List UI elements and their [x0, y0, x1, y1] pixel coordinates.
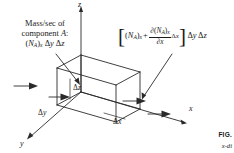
delta-y-factor: Δy	[187, 32, 196, 40]
delta-z-factor: Δz	[198, 32, 207, 40]
dimension-label-delta-y: Δy	[38, 109, 46, 117]
partial-derivative-fraction: ∂(NA)x ∂x	[149, 27, 170, 45]
inflow-arrow-lower-head	[61, 93, 71, 100]
cube-edge-top-left	[57, 55, 81, 68]
flux-term: (NA)x	[125, 32, 142, 41]
mass-flux-in-line2: component A:	[1, 29, 89, 39]
plus-sign: +	[143, 32, 148, 40]
expression-leader-line	[144, 54, 172, 96]
outflow-arrow-lower-head	[162, 110, 172, 117]
axis-label-y: y	[20, 140, 24, 148]
cube-edge-top-back	[81, 55, 140, 72]
cube-edge-bottom-front	[57, 105, 116, 122]
x-axis-arrowhead	[181, 120, 187, 125]
axis-label-z: z	[78, 1, 81, 9]
delta-x-factor: Δx	[171, 33, 179, 40]
cube-edge-top-right	[116, 72, 140, 85]
mass-flux-in-expression: (NA)x Δy Δz	[1, 39, 89, 50]
cube-edge-top-front	[57, 68, 116, 85]
outflow-arrow-upper-head	[137, 97, 147, 104]
mass-flux-in-label: Mass/sec of component A: (NA)x Δy Δz	[1, 19, 89, 51]
close-bracket: ]	[179, 29, 186, 44]
dimension-label-delta-z: Δz	[73, 84, 81, 92]
figure-caption-fragment: x-di	[222, 143, 232, 150]
mass-flux-in-line1: Mass/sec of	[1, 19, 89, 29]
fraction-numerator: ∂(NA)x	[149, 27, 170, 36]
open-bracket: [	[118, 29, 125, 44]
colon-punct: :	[66, 29, 68, 38]
dimension-label-delta-x: Δx	[113, 118, 121, 126]
cube-edge-bottom-back	[81, 92, 140, 109]
axis-label-x: x	[189, 105, 193, 113]
fraction-denominator: ∂x	[156, 38, 165, 45]
figure-number-label: FIG.	[218, 132, 232, 139]
component-word: component	[22, 29, 59, 38]
y-axis-arrowhead	[27, 132, 33, 139]
inflow-arrow-upper-head	[29, 83, 38, 90]
mass-flux-out-expression: [ (NA)x + ∂(NA)x ∂x Δx ] Δy Δz	[118, 27, 207, 45]
